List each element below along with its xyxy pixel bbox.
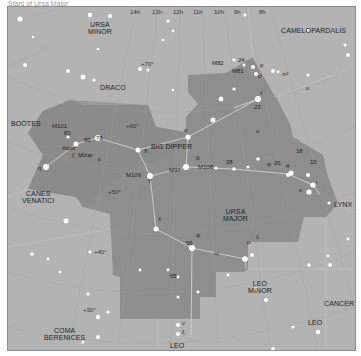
label-18: 18 [296,148,303,154]
ra-tick-10h: 10h [214,9,224,15]
label-gamma: γ [148,177,151,183]
label-mu: μ [247,239,250,245]
ra-tick-8h: 8h [259,9,266,15]
label-xi: ξ [182,329,185,335]
label-tau: τ [260,90,262,96]
star-chart: 14h 13h 12h 11h 10h 9h 8h +70° +60° +50°… [7,6,356,351]
label-80: 80 [84,137,91,143]
label-ursa-major: URSA MAJOR [223,208,248,222]
ra-tick-13h: 13h [152,9,162,15]
label-leo-south: LEO [170,342,184,349]
label-sigma: σ [258,73,262,79]
label-38: 38 [226,159,233,165]
label-nu: ν [182,320,185,326]
label-alpha: α [184,127,187,133]
label-leo-minor: LEO MINOR [248,280,272,294]
label-pi2: π² [282,71,288,77]
label-chi: χ [158,215,161,221]
label-m109: M109 [126,172,141,178]
label-camelopardalis: CAMELOPARDALIS [281,27,346,34]
label-zeta: ζ [72,152,75,158]
label-big-dipper: BIG DIPPER [151,143,192,150]
label-m81: M81 [232,68,244,74]
dec-tick-30: +30° [83,307,96,313]
label-ursa-minor: URSA MINOR [88,21,112,35]
dec-tick-70: +70° [141,61,154,67]
label-78: 78 [96,135,103,141]
label-m108: M108 [198,164,213,170]
label-lynx: LYNX [334,201,352,208]
label-omicron: ο [306,85,309,91]
label-56: 56 [186,240,193,246]
label-leo: LEO [308,319,322,326]
label-upsilon: υ [256,128,259,134]
dec-tick-40: +40° [94,249,107,255]
label-lambda: λ [256,234,259,240]
label-m101: M101 [52,123,67,129]
label-eta: η [38,165,41,171]
label-83: 83 [64,130,71,136]
dec-tick-60: +60° [126,123,139,129]
label-m97: M97 [169,167,181,173]
label-alcor: Alcor [62,145,76,151]
label-beta: β [196,155,199,161]
label-15: 15 [310,159,317,165]
label-epsilon: ε [98,156,101,162]
label-cancer: CANCER [324,300,354,307]
label-mizar: Mizar [78,152,93,158]
label-phi: φ [267,161,271,167]
label-55: 55 [170,273,177,279]
label-24: 24 [238,57,245,63]
label-iota: ι [316,179,317,185]
label-23: 23 [254,104,261,110]
label-omega: ω [214,250,219,256]
label-canes-venatici: CANES VENATICI [22,190,55,204]
label-psi: ψ [196,232,200,238]
label-kappa: κ [299,187,302,193]
dec-tick-50: +50° [108,189,121,195]
label-coma-berenices: COMA BERENICES [44,327,85,341]
ra-tick-11h: 11h [193,9,203,15]
ra-tick-14h: 14h [130,9,140,15]
label-delta: δ [144,148,147,154]
label-rho: ρ [260,62,263,68]
label-draco: DRACO [100,84,126,91]
ra-tick-9h: 9h [234,9,241,15]
ra-tick-12h: 12h [173,9,183,15]
label-theta: θ [286,163,289,169]
chart-graphics [8,7,355,350]
label-26: 26 [274,160,281,166]
label-m82: M82 [212,60,224,66]
label-bootes: BOÖTES [11,120,41,127]
